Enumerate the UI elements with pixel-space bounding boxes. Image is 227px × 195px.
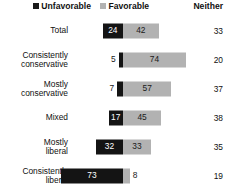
value-favorable: 42	[123, 26, 159, 35]
bar-area: 738	[0, 168, 227, 183]
value-unfavorable: 7	[104, 84, 114, 93]
bar-area: 1745	[0, 110, 227, 125]
value-neither: 37	[214, 84, 223, 94]
chart-row: Mostly liberal323335	[0, 132, 227, 161]
legend-item-unfavorable: Unfavorable	[33, 1, 91, 11]
chart-row: Mostly conservative75737	[0, 74, 227, 103]
value-unfavorable: 32	[96, 142, 123, 151]
chart-row: Consistently conservative57420	[0, 45, 227, 74]
legend-label-favorable: Favorable	[109, 1, 150, 11]
legend-swatch-unfavorable-icon	[33, 3, 39, 9]
value-unfavorable: 17	[109, 113, 123, 122]
value-unfavorable: 5	[106, 55, 116, 64]
neither-column-header: Neither	[193, 1, 223, 11]
bar-favorable	[123, 168, 130, 183]
value-favorable: 57	[123, 84, 171, 93]
legend-item-favorable: Favorable	[100, 1, 149, 11]
chart-row: Consistently liberal73819	[0, 161, 227, 190]
chart-row: Mixed174538	[0, 103, 227, 132]
value-neither: 35	[214, 142, 223, 152]
value-neither: 38	[214, 113, 223, 123]
legend-label-unfavorable: Unfavorable	[41, 1, 91, 11]
value-favorable: 45	[123, 113, 161, 122]
chart-legend: Unfavorable Favorable	[0, 1, 182, 11]
value-favorable: 8	[133, 171, 143, 180]
value-neither: 33	[214, 26, 223, 36]
legend-swatch-favorable-icon	[100, 3, 106, 9]
bar-area: 757	[0, 81, 227, 96]
value-unfavorable: 73	[61, 171, 123, 180]
chart-rows: Total244233Consistently conservative5742…	[0, 16, 227, 190]
value-favorable: 33	[123, 142, 151, 151]
value-neither: 20	[214, 55, 223, 65]
bar-area: 2442	[0, 23, 227, 38]
bar-area: 574	[0, 52, 227, 67]
bar-area: 3233	[0, 139, 227, 154]
diverging-bar-chart: Unfavorable Favorable Neither Total24423…	[0, 0, 227, 195]
chart-row: Total244233	[0, 16, 227, 45]
value-favorable: 74	[123, 55, 186, 64]
value-neither: 19	[214, 171, 223, 181]
value-unfavorable: 24	[103, 26, 123, 35]
